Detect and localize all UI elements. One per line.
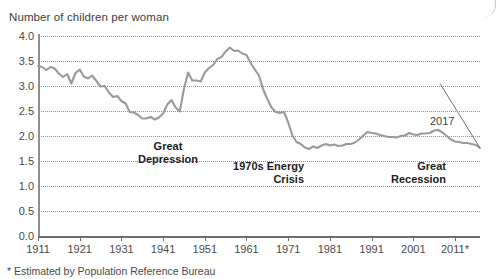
series-line-fertility-rate	[38, 36, 480, 236]
y-tick-label: 0.0	[0, 230, 34, 242]
x-tick-label: 1991	[359, 243, 383, 255]
footnote: * Estimated by Population Reference Bure…	[7, 265, 215, 277]
x-tick-label: 1941	[151, 243, 175, 255]
border-arc-top-right	[471, 0, 496, 17]
y-tick-label: 3.0	[0, 80, 34, 92]
x-tick-label: 1981	[318, 243, 342, 255]
annotation-great-recession: Great Recession	[356, 160, 446, 186]
endpoint-year-label: 2017	[430, 115, 454, 127]
x-tick-mark	[38, 236, 39, 241]
annotation-energy-crisis: 1970s Energy Crisis	[208, 160, 304, 186]
x-tick-label: 1971	[276, 243, 300, 255]
x-tick-mark	[163, 236, 164, 241]
x-tick-mark	[205, 236, 206, 241]
y-tick-label: 2.0	[0, 130, 34, 142]
x-tick-label: 1951	[193, 243, 217, 255]
annotation-great-depression: Great Depression	[138, 140, 198, 166]
y-tick-label: 1.0	[0, 180, 34, 192]
y-tick-label: 2.5	[0, 105, 34, 117]
x-tick-label: 1921	[67, 243, 91, 255]
x-tick-label: 2001	[401, 243, 425, 255]
y-tick-label: 1.5	[0, 155, 34, 167]
x-tick-mark	[372, 236, 373, 241]
x-tick-mark	[80, 236, 81, 241]
y-axis-title: Number of children per woman	[9, 11, 169, 23]
y-tick-label: 0.5	[0, 205, 34, 217]
x-tick-label: 2011*	[441, 243, 469, 255]
x-tick-mark	[121, 236, 122, 241]
x-tick-mark	[246, 236, 247, 241]
x-tick-label: 1961	[234, 243, 258, 255]
x-tick-mark	[330, 236, 331, 241]
x-tick-label: 1931	[109, 243, 133, 255]
x-tick-mark	[413, 236, 414, 241]
y-tick-label: 3.5	[0, 55, 34, 67]
x-tick-label: 1911	[26, 243, 50, 255]
plot-area: Great Depression 1970s Energy Crisis Gre…	[38, 36, 480, 236]
x-tick-mark	[455, 236, 456, 241]
y-tick-label: 4.0	[0, 30, 34, 42]
x-tick-mark	[288, 236, 289, 241]
